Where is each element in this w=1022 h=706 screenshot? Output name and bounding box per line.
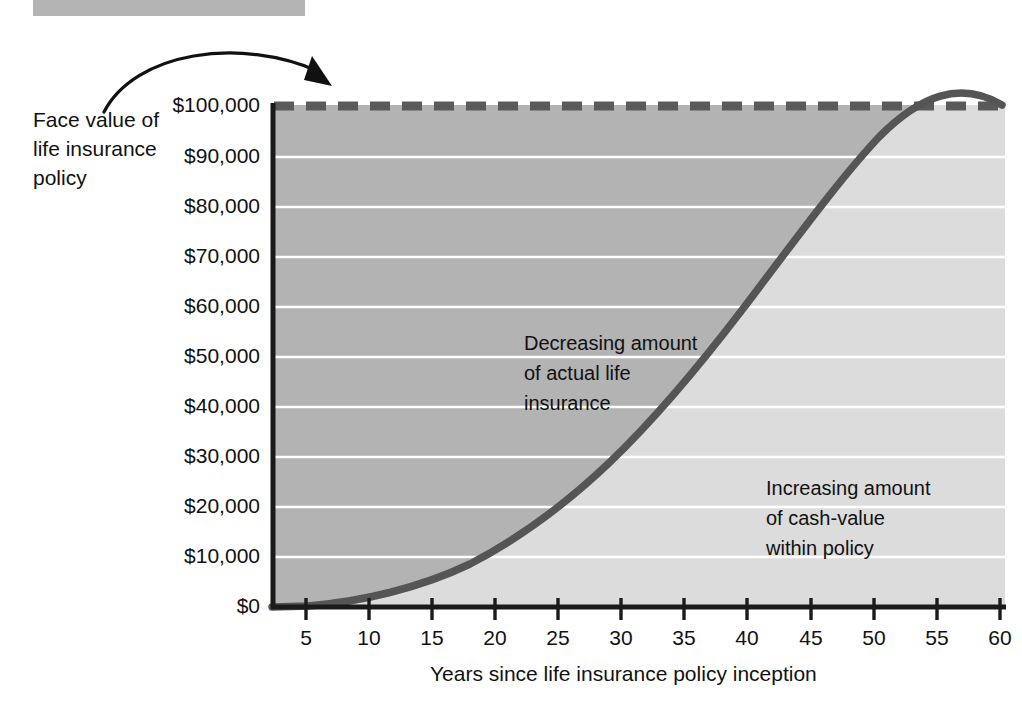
decreasing-line-3: insurance — [524, 388, 697, 418]
x-tick-label-60: 60 — [970, 626, 1022, 650]
y-tick-label-0: $0 — [60, 594, 260, 618]
x-tick-label-55: 55 — [907, 626, 967, 650]
x-tick-label-50: 50 — [844, 626, 904, 650]
x-tick-label-10: 10 — [339, 626, 399, 650]
x-tick-label-25: 25 — [528, 626, 588, 650]
y-tick-label-50000: $50,000 — [60, 344, 260, 368]
y-tick-label-100000: $100,000 — [60, 93, 260, 117]
y-tick-label-90000: $90,000 — [60, 144, 260, 168]
decreasing-insurance-label: Decreasing amount of actual life insuran… — [524, 328, 697, 418]
x-axis-title: Years since life insurance policy incept… — [430, 662, 817, 686]
increasing-cash-value-label: Increasing amount of cash-value within p… — [766, 473, 931, 563]
decreasing-line-2: of actual life — [524, 358, 697, 388]
y-tick-label-10000: $10,000 — [60, 544, 260, 568]
y-tick-label-60000: $60,000 — [60, 294, 260, 318]
x-tick-label-15: 15 — [402, 626, 462, 650]
y-tick-label-20000: $20,000 — [60, 494, 260, 518]
y-tick-label-80000: $80,000 — [60, 194, 260, 218]
x-tick-label-45: 45 — [781, 626, 841, 650]
increasing-line-1: Increasing amount — [766, 473, 931, 503]
y-tick-label-40000: $40,000 — [60, 394, 260, 418]
x-tick-label-20: 20 — [465, 626, 525, 650]
figure-root: Face value of life insurance policy — [0, 0, 1022, 706]
x-tick-label-40: 40 — [717, 626, 777, 650]
increasing-line-2: of cash-value — [766, 503, 931, 533]
y-tick-label-70000: $70,000 — [60, 244, 260, 268]
decreasing-line-1: Decreasing amount — [524, 328, 697, 358]
x-tick-label-5: 5 — [276, 626, 336, 650]
x-tick-label-35: 35 — [654, 626, 714, 650]
x-tick-label-30: 30 — [591, 626, 651, 650]
y-tick-label-30000: $30,000 — [60, 444, 260, 468]
increasing-line-3: within policy — [766, 533, 931, 563]
